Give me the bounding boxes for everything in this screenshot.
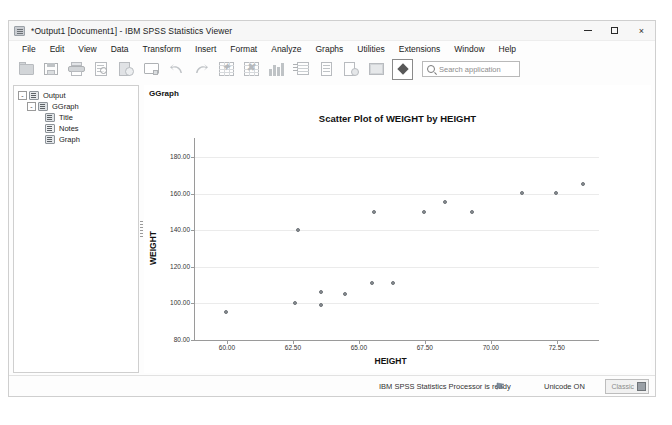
scatter-plot: 80.00100.00120.00140.00160.00180.0060.00… (144, 85, 651, 373)
menu-analyze[interactable]: Analyze (264, 44, 308, 54)
undo-icon (168, 61, 185, 77)
insert-text-button[interactable] (314, 58, 339, 80)
undo-button[interactable] (164, 58, 189, 80)
gridline-y (194, 157, 599, 158)
tree-label-output: Output (43, 91, 66, 100)
title-bar: *Output1 [Document1] - IBM SPSS Statisti… (9, 21, 655, 41)
window-title: *Output1 [Document1] - IBM SPSS Statisti… (31, 26, 232, 36)
maximize-button[interactable] (601, 21, 628, 40)
dialog-recall-button[interactable] (139, 58, 164, 80)
tree-label-ggraph: GGraph (52, 102, 79, 111)
ytick-label: 120.00 (154, 263, 190, 270)
menu-format[interactable]: Format (223, 44, 264, 54)
select-button[interactable] (392, 59, 413, 80)
outline-tree: - Output - GGraph Title Notes (14, 86, 138, 145)
menu-extensions[interactable]: Extensions (392, 44, 448, 54)
ytick-label: 140.00 (154, 226, 190, 233)
dialog-recall-icon (143, 61, 160, 77)
tree-item-notes[interactable]: Notes (18, 123, 138, 134)
expander-output[interactable]: - (18, 91, 27, 100)
goto-case-button[interactable]: ✦ (214, 58, 239, 80)
minimize-icon (584, 30, 592, 31)
data-point (422, 210, 426, 214)
toolbar: ✦ ✖ Search application (9, 56, 655, 83)
processor-flag-icon (496, 382, 505, 391)
data-point (296, 228, 300, 232)
menu-data[interactable]: Data (104, 44, 136, 54)
notes-icon (45, 124, 55, 133)
ytick-label: 160.00 (154, 190, 190, 197)
menu-file[interactable]: File (15, 44, 43, 54)
ggraph-icon (38, 102, 48, 111)
spss-viewer-icon (14, 25, 26, 37)
gridline-y (194, 303, 599, 304)
spss-viewer-window: *Output1 [Document1] - IBM SPSS Statisti… (8, 20, 656, 397)
insert-object-icon (343, 61, 360, 77)
menu-insert[interactable]: Insert (188, 44, 223, 54)
menu-view[interactable]: View (71, 44, 103, 54)
status-classic-toggle[interactable]: Classic (605, 379, 649, 394)
data-point (319, 303, 323, 307)
data-point (343, 292, 347, 296)
insert-object-button[interactable] (339, 58, 364, 80)
output-content-pane[interactable]: GGraph Scatter Plot of WEIGHT by HEIGHT … (144, 85, 651, 373)
goto-variable-icon: ✖ (243, 61, 260, 77)
show-hide-button[interactable] (364, 58, 389, 80)
search-application-input[interactable]: Search application (422, 61, 520, 77)
expander-ggraph[interactable]: - (27, 102, 36, 111)
ytick-label: 80.00 (154, 336, 190, 343)
tree-item-graph[interactable]: Graph (18, 134, 138, 145)
redo-button[interactable] (189, 58, 214, 80)
viewer-body: - Output - GGraph Title Notes (9, 82, 655, 376)
y-axis-title: WEIGHT (148, 231, 158, 265)
window-controls: × (574, 21, 655, 40)
data-point (443, 200, 447, 204)
print-preview-icon (93, 61, 110, 77)
tree-item-output[interactable]: - Output (18, 90, 138, 101)
minimize-button[interactable] (574, 21, 601, 40)
export-button[interactable] (114, 58, 139, 80)
y-axis (194, 138, 195, 340)
ytick-label: 100.00 (154, 299, 190, 306)
graph-icon (45, 135, 55, 144)
bar-chart-button[interactable] (264, 58, 289, 80)
gridline-y (194, 267, 599, 268)
tree-item-title[interactable]: Title (18, 112, 138, 123)
save-file-button[interactable] (39, 58, 64, 80)
data-point (391, 281, 395, 285)
xtick-label: 70.00 (475, 344, 507, 351)
data-point (470, 210, 474, 214)
classic-grid-icon (637, 382, 646, 391)
menu-bar: File Edit View Data Transform Insert For… (9, 41, 655, 56)
goto-variable-button[interactable]: ✖ (239, 58, 264, 80)
tree-label-graph: Graph (59, 135, 80, 144)
menu-graphs[interactable]: Graphs (308, 44, 350, 54)
x-axis-title: HEIGHT (375, 356, 407, 366)
status-unicode: Unicode ON (544, 382, 585, 391)
open-file-button[interactable] (14, 58, 39, 80)
print-button[interactable] (64, 58, 89, 80)
goto-case-icon: ✦ (218, 61, 235, 77)
title-icon (45, 113, 55, 122)
tree-item-ggraph[interactable]: - GGraph (18, 101, 138, 112)
ytick-label: 180.00 (154, 153, 190, 160)
x-axis (194, 340, 599, 341)
menu-help[interactable]: Help (492, 44, 523, 54)
print-icon (68, 61, 85, 77)
close-button[interactable]: × (628, 21, 655, 40)
menu-transform[interactable]: Transform (136, 44, 188, 54)
print-preview-button[interactable] (89, 58, 114, 80)
search-icon (427, 65, 435, 73)
data-point (224, 310, 228, 314)
outline-navigator-panel[interactable]: - Output - GGraph Title Notes (13, 85, 139, 373)
splitter-grip (140, 221, 143, 237)
insert-text-icon (318, 61, 335, 77)
pivot-table-button[interactable] (289, 58, 314, 80)
gridline-y (194, 230, 599, 231)
menu-utilities[interactable]: Utilities (350, 44, 391, 54)
data-point (581, 182, 585, 186)
export-icon (118, 61, 135, 77)
menu-edit[interactable]: Edit (43, 44, 72, 54)
menu-window[interactable]: Window (447, 44, 491, 54)
bar-chart-icon (268, 61, 285, 77)
